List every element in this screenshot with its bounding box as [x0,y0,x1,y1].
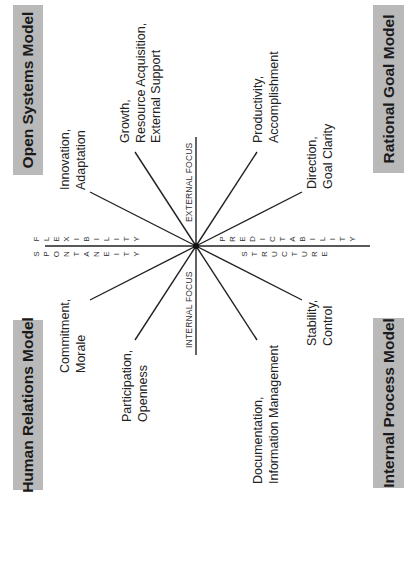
letter: T [290,249,300,259]
label-innovation: Innovation, Adaptation [58,129,89,190]
letter: N [62,249,72,259]
letter: I [92,234,102,244]
letter: T [122,249,132,259]
human-relations-model-title: Human Relations Model [19,317,37,493]
letter: L [318,234,328,244]
letter: I [328,234,338,244]
label-line: Documentation, [251,345,267,484]
label-line: Openness [136,350,152,422]
label-line: Resource Acquisition, [134,23,150,143]
label-line: Control [321,300,337,346]
label-productivity: Productivity, Accomplishment [251,51,282,143]
letter: C [280,249,290,259]
letter: S [240,249,250,259]
letter: N [92,249,102,259]
center-point [193,243,199,249]
letter: B [298,234,308,244]
letter: B [82,234,92,244]
letter: F [32,234,42,244]
label-line: Participation, [120,350,136,422]
label-line: Goal Clarity [321,124,337,189]
letter: I [72,234,82,244]
label-line: Stability, [305,300,321,346]
label-line: Growth, [118,23,134,143]
letter: O [52,249,62,259]
letter: P [42,249,52,259]
letter: U [270,249,280,259]
label-line: Information Management [267,345,283,484]
label-line: Direction, [305,124,321,189]
internal-focus-label: INTERNAL FOCUS [184,271,194,348]
letter: T [122,234,132,244]
competing-values-lines [0,0,411,581]
label-documentation: Documentation, Information Management [251,345,282,484]
letter: E [238,234,248,244]
letter: S [32,249,42,259]
letter: I [258,234,268,244]
letter: R [260,249,270,259]
rational-goal-model-box: Rational Goal Model [373,5,404,173]
label-line: Adaptation [74,129,90,190]
letter: Y [132,249,142,259]
label-line: Productivity, [251,51,267,143]
spoke-productivity [196,152,257,246]
spontaneity-letters: S P O N T A N E I T Y [32,249,142,259]
letter: A [82,249,92,259]
spoke-documentation [196,246,257,340]
rational-goal-model-title: Rational Goal Model [380,15,398,164]
letter: E [102,249,112,259]
open-systems-model-box: Open Systems Model [13,5,43,175]
letter: I [308,234,318,244]
human-relations-model-box: Human Relations Model [13,320,43,490]
letter: I [112,234,122,244]
label-line: Accomplishment [267,51,283,143]
label-direction: Direction, Goal Clarity [305,124,336,189]
label-participation: Participation, Openness [120,350,151,422]
internal-process-model-title: Internal Process Model [380,318,398,488]
label-line: External Support [149,23,165,143]
label-stability: Stability, Control [305,300,336,346]
structure-letters: S T R U C T U R E [240,249,330,259]
letter: Y [348,234,358,244]
letter: L [42,234,52,244]
predictability-letters: P R E D I C T A B I L I T Y [218,234,358,244]
letter: P [218,234,228,244]
letter: D [248,234,258,244]
label-line: Innovation, [58,129,74,190]
label-growth: Growth, Resource Acquisition, External S… [118,23,165,143]
letter: R [310,249,320,259]
letter: T [278,234,288,244]
letter: X [62,234,72,244]
letter: L [102,234,112,244]
letter: U [300,249,310,259]
letter: C [268,234,278,244]
label-line: Commitment, [58,299,74,373]
letter: E [320,249,330,259]
letter: A [288,234,298,244]
letter: Y [132,234,142,244]
label-commitment: Commitment, Morale [58,299,89,373]
letter: T [72,249,82,259]
letter: R [228,234,238,244]
letter: T [250,249,260,259]
letter: E [52,234,62,244]
letter: I [112,249,122,259]
open-systems-model-title: Open Systems Model [19,12,37,169]
internal-process-model-box: Internal Process Model [373,318,404,488]
label-line: Morale [74,299,90,373]
letter: T [338,234,348,244]
external-focus-label: EXTERNAL FOCUS [184,143,194,222]
flexibility-letters: F L E X I B I L I T Y [32,234,142,244]
